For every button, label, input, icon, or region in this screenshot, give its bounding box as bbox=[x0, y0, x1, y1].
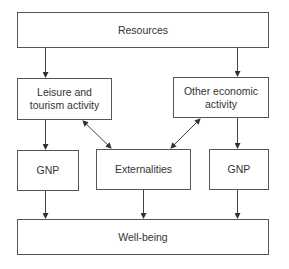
node-externalities-label: Externalities bbox=[115, 163, 172, 176]
node-resources-label: Resources bbox=[118, 24, 168, 37]
node-other-economic-label: Other economic activity bbox=[182, 85, 260, 111]
node-gnp-right: GNP bbox=[209, 149, 269, 190]
node-leisure-tourism: Leisure and tourism activity bbox=[17, 78, 112, 120]
node-resources: Resources bbox=[17, 12, 269, 48]
node-externalities: Externalities bbox=[96, 149, 191, 190]
biarrow-leisure-externalities bbox=[83, 121, 111, 148]
node-gnp-right-label: GNP bbox=[228, 163, 251, 176]
node-wellbeing-label: Well-being bbox=[118, 231, 167, 244]
biarrow-other-externalities bbox=[171, 119, 200, 148]
node-wellbeing: Well-being bbox=[17, 219, 269, 255]
node-leisure-tourism-label: Leisure and tourism activity bbox=[24, 86, 105, 112]
node-gnp-left-label: GNP bbox=[37, 164, 60, 177]
node-other-economic: Other economic activity bbox=[173, 77, 269, 118]
node-gnp-left: GNP bbox=[17, 150, 79, 191]
